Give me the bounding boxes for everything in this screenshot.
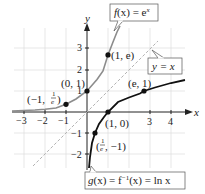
svg-text:e: e: [51, 98, 54, 106]
svg-text:, −1): , −1): [105, 140, 126, 153]
x-tick-m1: −1: [58, 115, 69, 126]
point-label-e-1: (e, 1): [128, 77, 152, 90]
point-label-1-e: (1, e): [111, 49, 135, 62]
callout-identity: y = x: [148, 50, 182, 74]
svg-text:1: 1: [52, 90, 56, 98]
point-0-1: [84, 88, 89, 93]
y-tick-3: 3: [77, 42, 82, 53]
point-1-0: [105, 109, 110, 114]
point-1-e: [105, 52, 110, 57]
x-tick-m2: −2: [37, 115, 48, 126]
point-label-inv-e-m1: ( 1 e , −1): [96, 137, 126, 153]
x-axis-label: x: [193, 106, 199, 118]
svg-text:): ): [57, 93, 61, 106]
svg-text:g(x) = f−1(x) = ln x: g(x) = f−1(x) = ln x: [88, 174, 171, 187]
x-tick-4: 4: [168, 116, 173, 127]
callout-ln: g(x) = f−1(x) = ln x: [85, 166, 185, 189]
x-axis-arrow-icon: [185, 109, 193, 115]
svg-text:(−1,: (−1,: [27, 93, 45, 106]
point-m1-inv-e: [63, 102, 68, 107]
y-tick-2: 2: [77, 64, 82, 75]
svg-text:y = x: y = x: [151, 60, 175, 72]
y-tick-m1: −1: [71, 128, 82, 139]
point-label-1-0: (1, 0): [105, 117, 129, 130]
x-tick-m3: −3: [16, 115, 27, 126]
svg-text:e: e: [100, 145, 103, 153]
y-axis-arrow-icon: [84, 23, 90, 31]
x-tick-3: 3: [147, 116, 152, 127]
point-inv-e-m1: [92, 130, 97, 135]
point-e-1: [141, 88, 146, 93]
point-label-0-1: (0, 1): [61, 77, 85, 90]
y-axis-label: y: [84, 12, 90, 24]
svg-text:f(x) = ex: f(x) = ex: [114, 6, 150, 19]
y-tick-m2: −2: [71, 149, 82, 160]
graph-canvas: x y −3 −2 −1 3 4 3 2 1 −1 −2 (1, e) (0, …: [0, 0, 205, 194]
callout-exp: f(x) = ex: [110, 4, 158, 31]
point-label-m1-inv-e: (−1, 1 e ): [27, 90, 61, 106]
